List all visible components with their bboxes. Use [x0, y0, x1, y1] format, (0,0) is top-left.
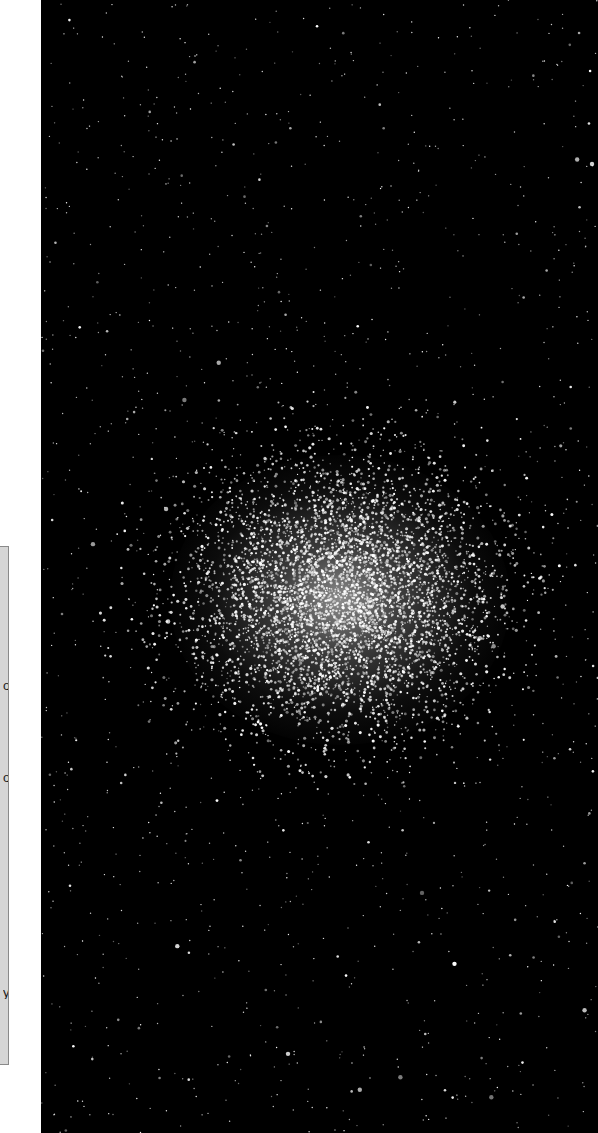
side-panel: o o y: [0, 546, 9, 1065]
panel-text-fragment: y: [3, 986, 8, 999]
panel-text-fragment: o: [3, 771, 8, 784]
panel-text-fragment: o: [3, 679, 8, 692]
star-cluster-image: [41, 0, 598, 1133]
star-field: [41, 0, 598, 1133]
